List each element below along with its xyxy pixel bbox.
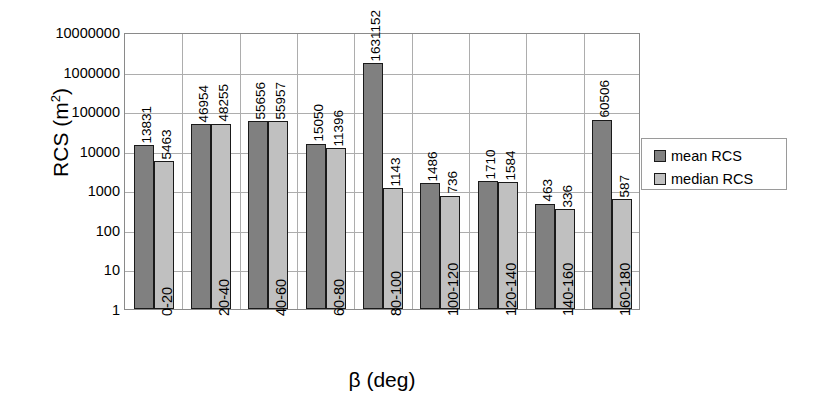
y-axis-tick-label: 100000: [20, 105, 120, 120]
bar-value-label: 46954: [187, 85, 201, 123]
y-axis-tick-label: 1: [20, 303, 120, 318]
legend-label: mean RCS: [671, 148, 742, 164]
bar-mean-rcs[interactable]: 46954: [191, 124, 211, 309]
x-axis-tick-label: 20-40: [217, 279, 232, 316]
bar-mean-rcs[interactable]: 463: [535, 204, 555, 309]
bar-group: 4695448255: [182, 34, 239, 309]
bar-value-label: 736: [437, 171, 451, 194]
bar-value-label: 336: [551, 185, 565, 208]
y-axis-tick-label: 10000000: [20, 26, 120, 41]
bar-group: 5565655957: [240, 34, 297, 309]
x-axis-tick-label: 80-100: [389, 271, 404, 316]
bar-value-label: 13831: [130, 106, 144, 144]
y-axis-tick-label: 1000000: [20, 65, 120, 80]
x-axis-title: β (deg): [124, 368, 640, 392]
bar-value-label: 11396: [322, 110, 336, 147]
y-axis-tick-label: 10: [20, 263, 120, 278]
bar-value-label: 48255: [207, 84, 221, 122]
y-axis-tick-label: 1000: [20, 184, 120, 199]
bar-value-label: 587: [609, 175, 623, 198]
bar-value-label: 5463: [150, 129, 164, 159]
bar-value-label: 60506: [589, 80, 603, 118]
x-axis-tick-label: 120-140: [504, 263, 519, 316]
bar-value-label: 1486: [417, 151, 431, 181]
bar-value-label: 1710: [474, 149, 488, 179]
x-axis-tick-label: 100-120: [446, 263, 461, 316]
y-axis-tick-labels: 100000001000000100000100001000100101: [16, 0, 120, 416]
x-axis-tick-label: 0-20: [160, 287, 175, 316]
rcs-bar-chart: RCS (m2) 1000000010000001000001000010001…: [0, 0, 821, 416]
bar-value-label: 1143: [379, 157, 393, 186]
bar-mean-rcs[interactable]: 55656: [248, 121, 268, 309]
y-axis-tick-label: 10000: [20, 144, 120, 159]
legend-item[interactable]: median RCS: [654, 169, 786, 189]
x-axis-tick-label: 140-160: [561, 263, 576, 316]
x-axis-tick-label: 40-60: [274, 279, 289, 316]
legend-item[interactable]: mean RCS: [654, 146, 786, 166]
y-axis-tick-label: 100: [20, 224, 120, 239]
bar-group: 16311521143: [354, 34, 411, 309]
bar-mean-rcs[interactable]: 1486: [420, 183, 440, 309]
chart-legend: mean RCSmedian RCS: [641, 138, 787, 190]
legend-swatch-icon: [654, 173, 666, 185]
x-axis-tick-label: 60-80: [332, 279, 347, 316]
bar-value-label: 15050: [302, 104, 316, 142]
bar-mean-rcs[interactable]: 60506: [592, 120, 612, 309]
bar-group: 1505011396: [297, 34, 354, 309]
legend-swatch-icon: [654, 150, 666, 162]
bar-mean-rcs[interactable]: 15050: [306, 144, 326, 309]
x-axis-tick-label: 160-180: [618, 263, 633, 316]
bar-group: 138315463: [125, 34, 182, 309]
bar-mean-rcs[interactable]: 1710: [478, 181, 498, 309]
bar-value-label: 463: [531, 179, 545, 202]
bar-value-label: 1631152: [359, 10, 373, 62]
bar-value-label: 1584: [494, 150, 508, 180]
legend-label: median RCS: [671, 171, 753, 187]
bar-value-label: 55656: [245, 82, 259, 120]
bar-mean-rcs[interactable]: 13831: [134, 145, 154, 309]
bar-value-label: 55957: [265, 82, 279, 120]
